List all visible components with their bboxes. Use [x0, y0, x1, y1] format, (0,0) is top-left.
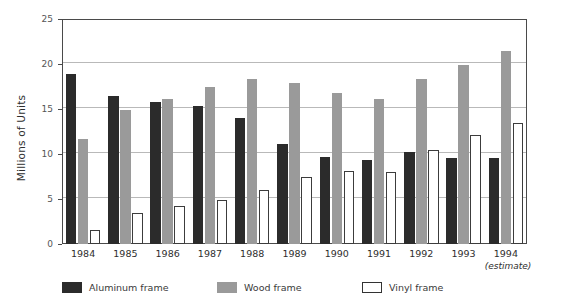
bar-aluminum-1994 [489, 158, 500, 244]
bar-aluminum-1993 [446, 158, 457, 244]
x-tick-label-1984: 1984 [62, 248, 104, 259]
bar-vinyl-1990 [344, 171, 355, 244]
x-tick-year: 1990 [325, 248, 349, 259]
bars-layer [62, 19, 527, 244]
bar-wood-1993 [458, 65, 469, 244]
bar-vinyl-1985 [132, 213, 143, 245]
x-tick-label-1991: 1991 [358, 248, 400, 259]
bar-vinyl-1989 [301, 177, 312, 245]
legend-label-vinyl: Vinyl frame [389, 282, 443, 293]
x-tick-annotation: (estimate) [485, 261, 527, 271]
x-tick-label-1989: 1989 [273, 248, 315, 259]
x-tick-label-1992: 1992 [400, 248, 442, 259]
bar-group [489, 19, 524, 244]
x-tick-label-1988: 1988 [231, 248, 273, 259]
y-tick-label: 20 [24, 59, 58, 69]
x-tick-year: 1985 [113, 248, 137, 259]
x-tick-year: 1989 [282, 248, 306, 259]
x-tick-label-1986: 1986 [147, 248, 189, 259]
y-tick-label: 5 [24, 194, 58, 204]
bar-aluminum-1989 [277, 144, 288, 244]
y-tick-label: 10 [24, 149, 58, 159]
x-tick-year: 1993 [451, 248, 475, 259]
bar-wood-1992 [416, 79, 427, 244]
x-tick-year: 1988 [240, 248, 264, 259]
bar-group [277, 19, 312, 244]
bar-aluminum-1987 [193, 106, 204, 244]
bar-wood-1984 [78, 139, 89, 244]
bar-group [362, 19, 397, 244]
y-tick-label: 25 [24, 14, 58, 24]
x-tick-year: 1992 [409, 248, 433, 259]
x-tick-label-1985: 1985 [104, 248, 146, 259]
legend-swatch-vinyl [362, 282, 382, 293]
y-tick-mark [58, 244, 62, 245]
bar-vinyl-1987 [217, 200, 228, 244]
x-tick-year: 1991 [367, 248, 391, 259]
bar-aluminum-1988 [235, 118, 246, 244]
bar-wood-1989 [289, 83, 300, 244]
bar-wood-1991 [374, 99, 385, 244]
x-tick-label-1994: 1994(estimate) [485, 248, 527, 271]
bar-wood-1987 [205, 87, 216, 244]
bar-group [193, 19, 228, 244]
bar-aluminum-1992 [404, 152, 415, 244]
legend-item-aluminum[interactable]: Aluminum frame [62, 282, 169, 293]
x-tick-year: 1987 [198, 248, 222, 259]
bar-wood-1990 [332, 93, 343, 244]
legend-swatch-wood [217, 282, 237, 293]
x-tick-label-1990: 1990 [316, 248, 358, 259]
x-tick-year: 1986 [156, 248, 180, 259]
bar-aluminum-1991 [362, 160, 373, 244]
bar-group [66, 19, 101, 244]
bar-group [150, 19, 185, 244]
x-tick-year: 1994 [494, 248, 518, 259]
bar-group [235, 19, 270, 244]
chart-legend: Aluminum frameWood frameVinyl frame [62, 276, 532, 298]
x-tick-label-1993: 1993 [442, 248, 484, 259]
bar-wood-1988 [247, 79, 258, 244]
bar-vinyl-1984 [90, 230, 101, 244]
bar-aluminum-1985 [108, 96, 119, 244]
bar-aluminum-1990 [320, 157, 331, 244]
bar-vinyl-1994 [513, 123, 524, 244]
x-tick-year: 1984 [71, 248, 95, 259]
legend-item-vinyl[interactable]: Vinyl frame [362, 282, 443, 293]
y-tick-label: 0 [24, 239, 58, 249]
bar-vinyl-1992 [428, 150, 439, 245]
legend-label-aluminum: Aluminum frame [89, 282, 169, 293]
legend-item-wood[interactable]: Wood frame [217, 282, 302, 293]
bar-vinyl-1993 [470, 135, 481, 244]
x-tick-label-1987: 1987 [189, 248, 231, 259]
bar-group [404, 19, 439, 244]
bar-group [320, 19, 355, 244]
bar-wood-1986 [162, 99, 173, 244]
legend-label-wood: Wood frame [244, 282, 302, 293]
bar-chart: Millions of Units 0510152025 19841985198… [0, 0, 566, 306]
bar-vinyl-1988 [259, 190, 270, 244]
y-axis-title: Millions of Units [15, 78, 27, 198]
bar-group [108, 19, 143, 244]
bar-aluminum-1986 [150, 102, 161, 244]
bar-wood-1994 [501, 51, 512, 244]
bar-aluminum-1984 [66, 74, 77, 244]
bar-vinyl-1991 [386, 172, 397, 244]
legend-swatch-aluminum [62, 282, 82, 293]
y-tick-label: 15 [24, 104, 58, 114]
bar-vinyl-1986 [174, 206, 185, 244]
bar-group [446, 19, 481, 244]
bar-wood-1985 [120, 110, 131, 244]
